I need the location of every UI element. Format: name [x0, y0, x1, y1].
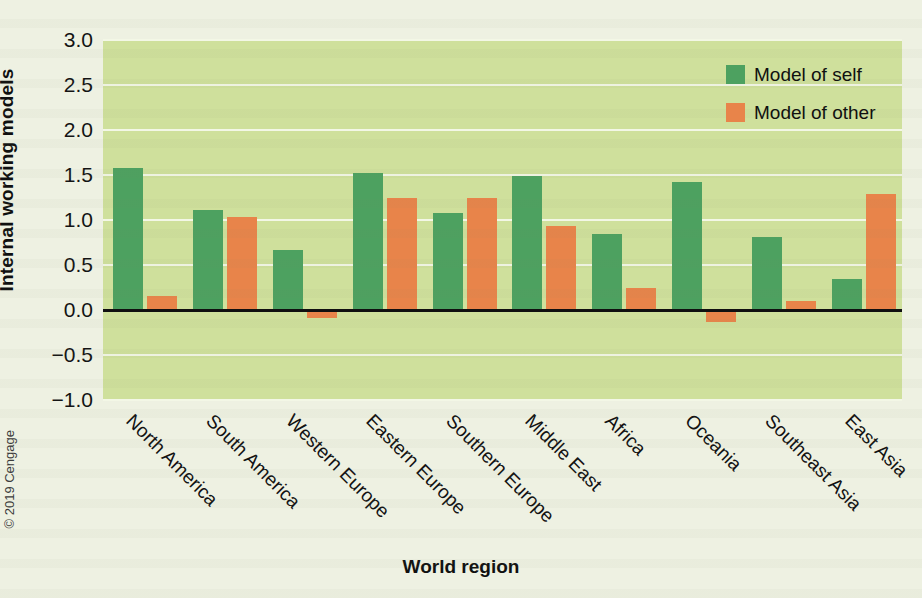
- bar-africa-other: [626, 288, 656, 310]
- gridline: [103, 219, 902, 221]
- x-tick-oceania: Oceania: [681, 410, 747, 476]
- x-axis-title: World region: [0, 556, 922, 578]
- bar-western-europe-self: [273, 250, 303, 310]
- bar-south-america-self: [193, 210, 223, 310]
- y-tick-3: 1.5: [19, 164, 93, 185]
- legend-item-model-of-self: Model of self: [726, 62, 875, 86]
- bar-oceania-self: [672, 182, 702, 310]
- y-tick-4: 1.0: [19, 209, 93, 230]
- y-tick-1: 2.5: [19, 74, 93, 95]
- bar-east-asia-self: [832, 279, 862, 311]
- legend: Model of self Model of other: [726, 62, 875, 138]
- bar-eastern-europe-other: [387, 198, 417, 311]
- copyright-credit: © 2019 Cengage: [2, 430, 17, 529]
- bar-southeast-asia-self: [752, 237, 782, 310]
- legend-label-self: Model of self: [754, 65, 862, 84]
- y-tick-6: 0.0: [19, 299, 93, 320]
- y-tick-0: 3.0: [19, 29, 93, 50]
- bar-southern-europe-self: [433, 213, 463, 310]
- gridline: [103, 39, 902, 41]
- bar-eastern-europe-self: [353, 173, 383, 310]
- gridline: [103, 174, 902, 176]
- legend-swatch-icon-other: [726, 103, 745, 122]
- bar-east-asia-other: [866, 194, 896, 310]
- x-tick-africa: Africa: [601, 410, 651, 460]
- gridline: [103, 399, 902, 401]
- bar-southern-europe-other: [467, 198, 497, 311]
- legend-item-model-of-other: Model of other: [726, 100, 875, 124]
- x-tick-east-asia: East Asia: [840, 410, 912, 482]
- bar-middle-east-other: [546, 226, 576, 310]
- gridline: [103, 264, 902, 266]
- gridline: [103, 354, 902, 356]
- y-tick-8: −1.0: [19, 389, 93, 410]
- y-tick-2: 2.0: [19, 119, 93, 140]
- zero-axis-line: [103, 309, 902, 312]
- bar-middle-east-self: [512, 176, 542, 310]
- bar-north-america-other: [147, 296, 177, 310]
- legend-swatch-icon-self: [726, 65, 745, 84]
- bar-africa-self: [592, 234, 622, 311]
- bar-north-america-self: [113, 168, 143, 310]
- figure-bar-chart: Internal working models 3.02.52.01.51.00…: [0, 0, 922, 598]
- legend-label-other: Model of other: [754, 103, 875, 122]
- y-tick-5: 0.5: [19, 254, 93, 275]
- x-tick-middle-east: Middle East: [521, 410, 607, 496]
- y-tick-7: −0.5: [19, 344, 93, 365]
- bar-south-america-other: [227, 217, 257, 310]
